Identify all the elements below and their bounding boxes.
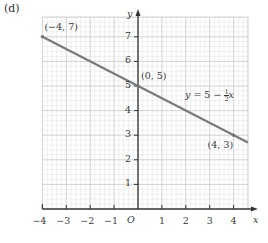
point-label: (0, 5) [141,70,167,81]
data-point [136,84,140,88]
x-tick-label: 1 [159,215,165,226]
x-tick-label: 2 [183,215,189,226]
x-axis-label: x [253,214,258,225]
data-point [41,35,45,39]
line-graph [0,0,268,243]
x-tick-label: −1 [104,215,118,226]
equation-label: y = 5 − 12x [185,89,234,102]
x-tick-label: −4 [32,215,46,226]
y-tick-label: 6 [125,54,131,65]
origin-label: O [127,214,135,225]
y-axis-label: y [127,8,132,19]
y-tick-label: 5 [125,79,131,90]
y-tick-label: 7 [125,30,131,41]
x-tick-label: −2 [80,215,94,226]
x-tick-label: 3 [207,215,213,226]
point-label: (−4, 7) [44,21,78,32]
point-label: (4, 3) [208,139,234,150]
y-tick-label: 1 [125,177,131,188]
part-label: (d) [4,2,20,15]
y-axis-arrow-icon [136,9,141,16]
x-axis-arrow-icon [251,207,258,212]
x-tick-label: −3 [56,215,70,226]
data-point [232,133,236,137]
x-tick-label: 4 [231,215,237,226]
y-tick-label: 4 [125,104,131,115]
y-tick-label: 3 [125,128,131,139]
y-tick-label: 2 [125,153,131,164]
